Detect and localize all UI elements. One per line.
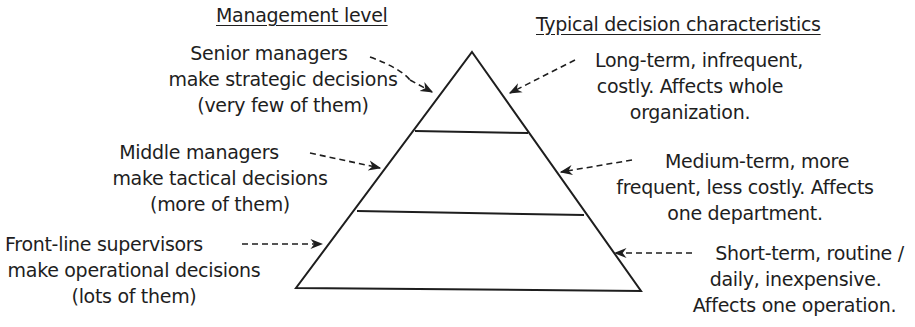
- pyramid-divider-bottom: [357, 211, 584, 215]
- pyramid-divider-top: [415, 131, 528, 133]
- management-senior-line1: Senior managers: [158, 40, 408, 66]
- characteristics-frontline-line2: daily, inexpensive.: [660, 266, 915, 292]
- management-middle-line3: (more of them): [100, 191, 340, 217]
- heading-decision-characteristics: Typical decision characteristics: [536, 13, 821, 35]
- characteristics-senior-line2: costly. Affects whole: [570, 73, 810, 99]
- management-senior-line3: (very few of them): [158, 92, 408, 118]
- management-middle-line2: make tactical decisions: [100, 165, 340, 191]
- arrow-senior-right: [510, 60, 575, 93]
- characteristics-middle-line3: one department.: [600, 200, 890, 226]
- management-middle: Middle managers make tactical decisions …: [100, 139, 340, 217]
- characteristics-senior-line1: Long-term, infrequent,: [570, 47, 810, 73]
- management-frontline: Front-line supervisors make operational …: [0, 231, 268, 309]
- characteristics-middle-line1: Medium-term, more: [600, 148, 890, 174]
- management-senior-line2: make strategic decisions: [158, 66, 408, 92]
- characteristics-frontline-line3: Affects one operation.: [660, 292, 915, 318]
- management-frontline-line2: make operational decisions: [0, 257, 268, 283]
- characteristics-frontline: Short-term, routine / daily, inexpensive…: [660, 240, 915, 318]
- characteristics-senior-line3: organization.: [570, 99, 810, 125]
- characteristics-middle: Medium-term, more frequent, less costly.…: [600, 148, 890, 226]
- characteristics-frontline-line1: Short-term, routine /: [660, 240, 915, 266]
- management-middle-line1: Middle managers: [100, 139, 340, 165]
- management-frontline-line1: Front-line supervisors: [0, 231, 268, 257]
- characteristics-middle-line2: frequent, less costly. Affects: [600, 174, 890, 200]
- management-frontline-line3: (lots of them): [0, 283, 268, 309]
- management-senior: Senior managers make strategic decisions…: [158, 40, 408, 118]
- characteristics-senior: Long-term, infrequent, costly. Affects w…: [570, 47, 810, 125]
- heading-management-level: Management level: [216, 4, 388, 26]
